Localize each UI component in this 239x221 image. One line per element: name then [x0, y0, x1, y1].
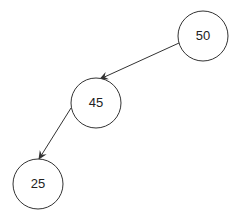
node-label-50: 50 — [178, 26, 228, 46]
edge-50-to-45 — [100, 43, 179, 79]
edge-45-to-25 — [39, 108, 71, 159]
node-label-25: 25 — [13, 174, 63, 194]
tree-diagram: 50 45 25 — [0, 0, 239, 221]
node-label-45: 45 — [71, 93, 121, 113]
